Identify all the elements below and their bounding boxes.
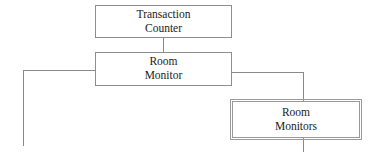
connector-monitor-right-horizontal [232,72,304,73]
node-room-monitors[interactable]: Room Monitors [232,101,360,138]
connector-monitors-bottom-stub [303,138,304,152]
connector-monitor-left-horizontal [23,70,95,71]
node-transaction-counter-line1: Transaction [137,8,191,22]
connector-monitor-left-vertical [23,70,24,146]
node-room-monitor-line1: Room [149,55,177,69]
node-transaction-counter[interactable]: Transaction Counter [95,5,232,38]
connector-counter-to-monitor [163,38,164,52]
diagram-canvas: Transaction Counter Room Monitor Room Mo… [0,0,370,152]
node-transaction-counter-line2: Counter [145,22,182,36]
node-room-monitors-line1: Room [282,106,310,120]
node-room-monitors-line2: Monitors [275,120,317,134]
node-room-monitor[interactable]: Room Monitor [95,52,232,86]
connector-monitor-right-vertical [303,72,304,102]
node-room-monitor-line2: Monitor [145,69,183,83]
